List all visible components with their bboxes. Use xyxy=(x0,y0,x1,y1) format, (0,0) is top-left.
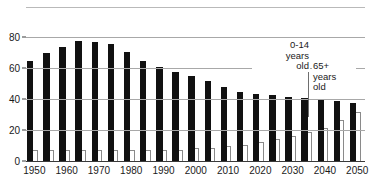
x-tick-label-2030: 2030 xyxy=(282,165,304,176)
bar-group xyxy=(188,22,204,162)
bar-young-1975 xyxy=(108,44,114,162)
x-tick-label-2000: 2000 xyxy=(185,165,207,176)
bar-young-2045 xyxy=(334,101,340,162)
x-axis-labels: 1950196019701980199020002010202020302040… xyxy=(26,165,365,181)
bar-group xyxy=(59,22,75,162)
bar-group xyxy=(221,22,237,162)
bar-group xyxy=(237,22,253,162)
y-tick-mark-60 xyxy=(22,67,26,68)
bar-young-1955 xyxy=(43,53,49,162)
bar-young-1960 xyxy=(59,47,65,162)
population-age-bar-chart: 020406080 195019601970198019902000201020… xyxy=(0,0,379,186)
annotation-young-line-1: 0-14 xyxy=(253,40,309,51)
bar-group xyxy=(172,22,188,162)
bar-young-2015 xyxy=(237,92,243,162)
annotation-young-line-3: old xyxy=(253,61,309,72)
bar-young-2050 xyxy=(350,103,356,162)
bar-young-1950 xyxy=(27,61,33,162)
x-tick-label-1970: 1970 xyxy=(88,165,110,176)
bar-group xyxy=(124,22,140,162)
y-tick-label-80: 80 xyxy=(9,33,26,43)
x-tick-label-1980: 1980 xyxy=(120,165,142,176)
gridline-40 xyxy=(26,99,365,100)
x-tick-label-2020: 2020 xyxy=(249,165,271,176)
bar-young-1985 xyxy=(140,61,146,162)
bar-group xyxy=(43,22,59,162)
y-tick-label-60: 60 xyxy=(9,64,26,74)
bar-group xyxy=(27,22,43,162)
bar-group xyxy=(75,22,91,162)
top-rule xyxy=(26,7,365,8)
x-tick-label-2040: 2040 xyxy=(314,165,336,176)
y-tick-mark-40 xyxy=(22,98,26,99)
annotation-old: 65+ years old xyxy=(312,61,356,93)
x-tick-label-1990: 1990 xyxy=(152,165,174,176)
x-tick-label-1950: 1950 xyxy=(23,165,45,176)
bar-group xyxy=(92,22,108,162)
bar-young-1990 xyxy=(156,67,162,162)
bar-young-1970 xyxy=(92,42,98,162)
gridline-20 xyxy=(26,130,365,131)
annotation-old-line-3: old xyxy=(313,82,355,93)
bar-young-1965 xyxy=(75,41,81,162)
bar-young-2005 xyxy=(205,81,211,162)
gridline-0 xyxy=(26,161,365,162)
y-tick-mark-0 xyxy=(22,161,26,162)
y-tick-mark-80 xyxy=(22,36,26,37)
bar-group xyxy=(205,22,221,162)
bar-young-1995 xyxy=(172,72,178,162)
gridline-80 xyxy=(26,37,365,38)
bar-young-2040 xyxy=(318,100,324,162)
x-tick-label-1960: 1960 xyxy=(56,165,78,176)
y-tick-label-20: 20 xyxy=(9,126,26,136)
bar-young-2020 xyxy=(253,94,259,162)
annotation-old-line-1: 65+ xyxy=(313,61,355,72)
x-tick-label-2010: 2010 xyxy=(217,165,239,176)
annotation-young: 0-14 years old xyxy=(252,40,310,72)
bar-group xyxy=(108,22,124,162)
bar-young-2025 xyxy=(269,95,275,162)
y-tick-label-40: 40 xyxy=(9,95,26,105)
x-tick-label-2050: 2050 xyxy=(346,165,368,176)
bar-group xyxy=(140,22,156,162)
bar-group xyxy=(156,22,172,162)
bar-young-2000 xyxy=(188,76,194,162)
y-tick-mark-20 xyxy=(22,129,26,130)
